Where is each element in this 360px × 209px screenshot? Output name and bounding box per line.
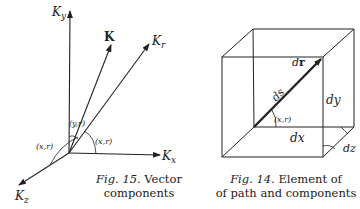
fig14-number: Fig. 14.: [230, 172, 275, 186]
fig15-vector-diagram: [19, 11, 160, 185]
kx-axis: [69, 153, 160, 155]
dz-label: dz: [343, 142, 356, 155]
angle-arc-dz-2: [323, 145, 335, 149]
dr-vector-label: dr: [292, 56, 305, 69]
fig14-caption: Fig. 14. Element of of path and componen…: [210, 172, 360, 200]
kz-label: Kz: [14, 189, 29, 205]
fig15-caption: Fig. 15. Vector components: [84, 172, 194, 200]
fig15-number: Fig. 15.: [96, 172, 141, 186]
angle-label-yr: (y,r): [69, 119, 85, 128]
angle-label-xr-left: (x,r): [36, 142, 53, 151]
cube-edge-tr: [323, 29, 354, 57]
cube-back-left-edge: [253, 29, 254, 127]
angle-label-xr: (x,r): [274, 115, 291, 124]
dx-label: dx: [290, 131, 305, 145]
cube-edge-tl: [222, 29, 253, 57]
cube-edge-bl: [222, 127, 254, 157]
ky-axis: [69, 11, 70, 153]
angle-arc-dz-1: [341, 127, 348, 134]
ds-label: ds: [269, 85, 287, 103]
ky-label: Ky: [51, 5, 67, 21]
kr-label: Kr: [151, 34, 166, 50]
kz-axis: [19, 153, 69, 185]
k-vector-label: K: [104, 30, 115, 44]
angle-label-xr-right: (x,r): [95, 137, 112, 146]
dy-label: dy: [326, 93, 341, 107]
kx-label: Kx: [161, 149, 176, 165]
